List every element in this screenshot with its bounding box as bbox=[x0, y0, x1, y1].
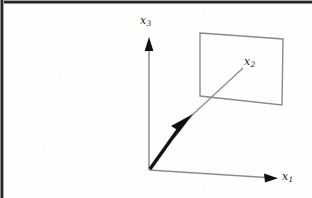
x3-axis bbox=[145, 37, 154, 170]
x2-vector-shaft bbox=[150, 127, 180, 169]
x1-axis bbox=[149, 170, 278, 183]
x3-label-subscript: 3 bbox=[147, 19, 152, 28]
x2-axis-label: x2 bbox=[244, 56, 255, 67]
x3-label-base: x bbox=[140, 14, 146, 27]
x3-axis-arrowhead bbox=[145, 37, 154, 51]
x1-label-base: x bbox=[282, 170, 288, 183]
coordinate-axes-figure bbox=[0, 0, 312, 198]
x2-axis-line-far bbox=[188, 68, 243, 119]
x2-axis bbox=[150, 68, 243, 169]
x3-axis-label: x3 bbox=[140, 15, 151, 26]
x2-label-subscript: 2 bbox=[251, 60, 256, 69]
x1-axis-line bbox=[149, 170, 266, 177]
x2-label-base: x bbox=[244, 55, 250, 68]
x1-axis-arrowhead bbox=[264, 173, 278, 182]
figure-page: x3 x2 x1 bbox=[0, 0, 312, 198]
x1-axis-label: x1 bbox=[282, 171, 293, 182]
x1-label-subscript: 1 bbox=[289, 175, 294, 184]
